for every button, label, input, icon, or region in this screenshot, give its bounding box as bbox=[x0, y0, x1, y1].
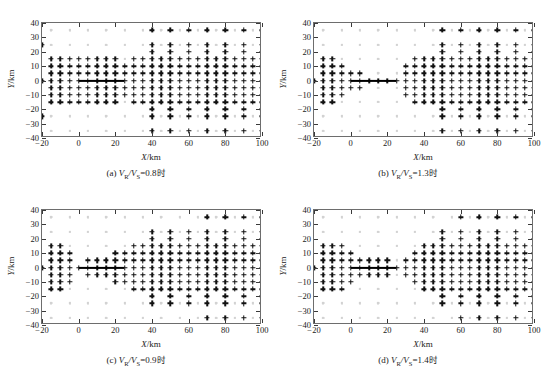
y-tick-label: −20 bbox=[298, 292, 311, 301]
x-axis-title-c: X/km bbox=[41, 339, 261, 349]
plot-area-b: 403020100−10−20−30−40−20020406080100 bbox=[313, 22, 533, 137]
x-tick-label: 0 bbox=[349, 139, 353, 148]
y-tick-label: −30 bbox=[298, 306, 311, 315]
y-tick bbox=[314, 311, 318, 312]
y-tick-right bbox=[528, 296, 532, 297]
x-tick-label: 80 bbox=[221, 326, 230, 335]
x-tick bbox=[79, 319, 80, 323]
caption-cn-suffix: 时 bbox=[429, 168, 438, 178]
x-axis-unit: /km bbox=[147, 152, 161, 162]
y-tick bbox=[42, 268, 46, 269]
x-tick bbox=[461, 132, 462, 136]
x-tick bbox=[152, 319, 153, 323]
y-tick bbox=[314, 37, 318, 38]
caption-tag: (a) bbox=[106, 168, 116, 178]
caption-tag: (c) bbox=[106, 355, 116, 365]
marker-layer-a bbox=[42, 23, 260, 136]
x-tick-label: 20 bbox=[383, 139, 392, 148]
marker-layer-d bbox=[314, 210, 532, 323]
y-tick bbox=[314, 109, 318, 110]
y-tick-right bbox=[256, 253, 260, 254]
y-axis-unit: /km bbox=[6, 69, 16, 83]
y-tick-right bbox=[256, 210, 260, 211]
x-tick-top bbox=[262, 23, 263, 27]
x-axis-title-d: X/km bbox=[313, 339, 533, 349]
y-tick-right bbox=[256, 239, 260, 240]
x-tick-top bbox=[387, 210, 388, 214]
y-tick-right bbox=[528, 239, 532, 240]
y-tick-label: 40 bbox=[31, 19, 40, 28]
y-tick-right bbox=[528, 124, 532, 125]
x-tick-label: 100 bbox=[528, 139, 541, 148]
y-tick-right bbox=[256, 66, 260, 67]
x-tick bbox=[262, 132, 263, 136]
x-tick-label: 20 bbox=[111, 139, 120, 148]
x-tick bbox=[351, 319, 352, 323]
x-tick-label: 40 bbox=[148, 326, 157, 335]
x-tick-label: 20 bbox=[111, 326, 120, 335]
panel-c: 403020100−10−20−30−40−20020406080100 Y/k… bbox=[0, 187, 272, 373]
x-tick bbox=[314, 319, 315, 323]
plot-area-c: 403020100−10−20−30−40−20020406080100 bbox=[41, 209, 261, 324]
x-tick-label: 100 bbox=[256, 326, 269, 335]
x-tick bbox=[497, 132, 498, 136]
x-tick-label: 80 bbox=[493, 326, 502, 335]
y-tick-right bbox=[528, 109, 532, 110]
y-tick-right bbox=[256, 282, 260, 283]
y-tick-right bbox=[256, 311, 260, 312]
y-tick-right bbox=[256, 124, 260, 125]
x-tick bbox=[387, 132, 388, 136]
x-tick-top bbox=[424, 23, 425, 27]
y-tick bbox=[314, 239, 318, 240]
x-tick bbox=[225, 132, 226, 136]
fault-trace-line bbox=[79, 266, 125, 268]
x-tick bbox=[314, 132, 315, 136]
panel-caption-a: (a) VR/VS=0.8时 bbox=[0, 166, 272, 180]
y-tick-label: 20 bbox=[303, 48, 312, 57]
y-axis-title-c: Y/km bbox=[6, 256, 16, 275]
y-tick-label: −30 bbox=[298, 119, 311, 128]
y-tick-label: −20 bbox=[26, 292, 39, 301]
x-tick bbox=[189, 319, 190, 323]
x-tick-label: 40 bbox=[148, 139, 157, 148]
y-tick-label: 0 bbox=[35, 76, 39, 85]
x-tick bbox=[225, 319, 226, 323]
x-tick-top bbox=[314, 210, 315, 214]
caption-value: =0.9 bbox=[140, 355, 156, 365]
fault-trace-line bbox=[79, 79, 125, 81]
fault-trace-line bbox=[351, 79, 397, 81]
y-tick bbox=[42, 311, 46, 312]
panel-caption-b: (b) VR/VS=1.3时 bbox=[272, 166, 544, 180]
y-tick bbox=[314, 282, 318, 283]
figure-root: 403020100−10−20−30−40−20020406080100 Y/k… bbox=[0, 0, 544, 373]
y-tick bbox=[42, 124, 46, 125]
y-tick-right bbox=[528, 210, 532, 211]
y-tick bbox=[314, 296, 318, 297]
y-tick-right bbox=[256, 296, 260, 297]
x-tick-label: −20 bbox=[35, 326, 48, 335]
x-tick-label: 60 bbox=[456, 139, 465, 148]
x-tick-top bbox=[262, 210, 263, 214]
y-axis-var: Y bbox=[6, 84, 16, 89]
x-tick-top bbox=[115, 23, 116, 27]
y-axis-unit: /km bbox=[278, 69, 288, 83]
y-tick bbox=[42, 66, 46, 67]
caption-cn-suffix: 时 bbox=[157, 168, 166, 178]
x-axis-title-b: X/km bbox=[313, 152, 533, 162]
marker-layer-b bbox=[314, 23, 532, 136]
fault-trace-line bbox=[351, 266, 397, 268]
panel-caption-c: (c) VR/VS=0.9时 bbox=[0, 353, 272, 367]
y-tick-label: −30 bbox=[26, 119, 39, 128]
x-tick bbox=[424, 319, 425, 323]
y-tick-label: −10 bbox=[26, 91, 39, 100]
y-tick-right bbox=[528, 282, 532, 283]
y-tick-label: 20 bbox=[31, 235, 40, 244]
y-tick-label: 10 bbox=[31, 62, 40, 71]
caption-cn-suffix: 时 bbox=[157, 355, 166, 365]
x-tick-top bbox=[351, 210, 352, 214]
y-tick-label: 40 bbox=[303, 206, 312, 215]
y-tick-right bbox=[256, 52, 260, 53]
x-axis-unit: /km bbox=[419, 152, 433, 162]
y-tick-right bbox=[256, 268, 260, 269]
x-tick bbox=[152, 132, 153, 136]
